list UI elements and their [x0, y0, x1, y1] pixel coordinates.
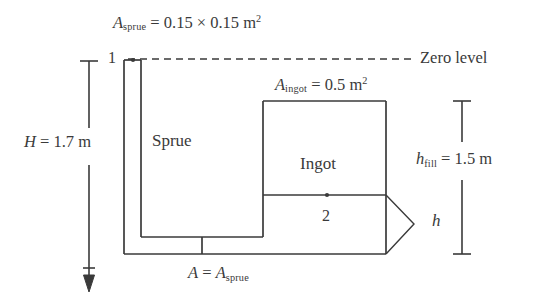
a-ingot-symbol: A	[275, 75, 285, 94]
a-sprue-formula-label: Asprue = 0.15 × 0.15 m2	[113, 14, 261, 33]
h-fill-symbol: h	[416, 149, 424, 168]
figure-canvas: Asprue = 0.15 × 0.15 m2 Zero level 1 H =…	[0, 0, 535, 301]
point-2-label: 2	[322, 208, 330, 224]
a-sprue-symbol: A	[113, 13, 123, 32]
h-height-label: H = 1.7 m	[24, 134, 91, 151]
point-1-label: 1	[108, 50, 116, 66]
a-ingot-exponent: 2	[362, 75, 367, 86]
point-1-marker-dot	[131, 58, 135, 62]
a-equals-a-sprue-label: A = Asprue	[188, 265, 249, 283]
a-eq-subscript: sprue	[226, 272, 249, 283]
a-ingot-equals: =	[311, 75, 320, 94]
a-sprue-equals: =	[150, 13, 159, 32]
sprue-region-label: Sprue	[152, 132, 192, 149]
h-fill-subscript: fill	[424, 158, 437, 169]
h-small-label: h	[432, 212, 441, 229]
h-fill-value: 1.5 m	[455, 149, 493, 168]
a-sprue-value: 0.15 × 0.15 m	[164, 13, 256, 32]
a-sprue-subscript: sprue	[123, 21, 146, 32]
h-dimension-bracket	[386, 195, 414, 254]
a-eq-equals: =	[202, 263, 211, 282]
a-sprue-exponent: 2	[256, 13, 261, 24]
h-dim-arrowhead	[84, 275, 95, 292]
a-ingot-subscript: ingot	[285, 83, 307, 94]
point-2-marker-dot	[325, 193, 329, 197]
a-eq-right-symbol: A	[216, 263, 226, 282]
h-fill-label: hfill = 1.5 m	[416, 151, 492, 169]
a-ingot-formula-label: Aingot = 0.5 m2	[275, 76, 367, 95]
h-height-symbol: H	[24, 132, 36, 151]
zero-level-label: Zero level	[420, 50, 487, 67]
h-height-value: 1.7 m	[53, 132, 91, 151]
h-fill-equals: =	[441, 149, 450, 168]
h-height-equals: =	[40, 132, 49, 151]
a-ingot-value: 0.5 m	[325, 75, 363, 94]
ingot-region-label: Ingot	[300, 155, 336, 172]
a-eq-left-symbol: A	[188, 263, 198, 282]
